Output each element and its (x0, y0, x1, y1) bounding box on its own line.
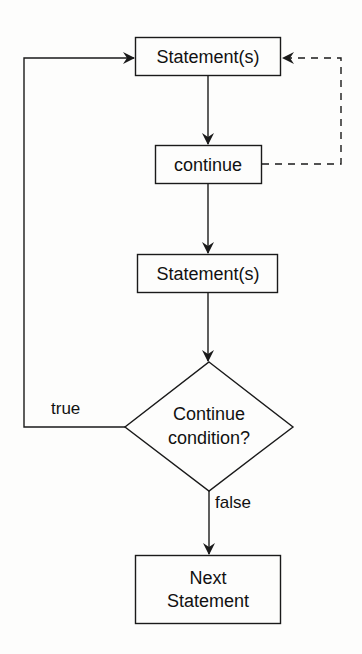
edge-label-false: false (215, 493, 251, 512)
edge-label-true: true (51, 399, 80, 418)
node-statement-2: Statement(s) (138, 255, 278, 293)
node-condition-label-line2: condition? (168, 428, 250, 448)
node-statement-1-label: Statement(s) (156, 47, 259, 67)
node-next-statement: Next Statement (136, 556, 281, 624)
flowchart-canvas: Statement(s) continue Statement(s) Conti… (0, 0, 362, 654)
node-statement-1: Statement(s) (136, 38, 281, 76)
node-next-label-line1: Next (189, 568, 226, 588)
node-next-label-line2: Statement (167, 591, 249, 611)
edge-continue-to-stmt1-dashed (262, 58, 341, 164)
node-continue-label: continue (174, 155, 242, 175)
node-statement-2-label: Statement(s) (156, 264, 259, 284)
flowchart-svg: Statement(s) continue Statement(s) Conti… (0, 0, 362, 654)
node-continue-condition: Continue condition? (125, 362, 293, 491)
node-condition-label-line1: Continue (173, 404, 245, 424)
edge-condition-true-to-stmt1 (24, 58, 134, 427)
node-continue: continue (156, 146, 262, 184)
